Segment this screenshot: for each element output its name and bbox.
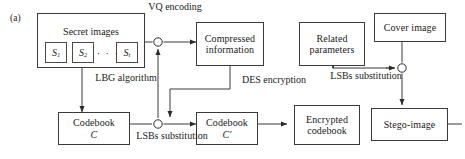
secret-image-st: St <box>116 42 138 63</box>
edge-compressed-down-left <box>170 66 230 103</box>
edge-label-lsbs-substitution-left-line1: LSBs <box>136 130 158 141</box>
secret-image-st-label: S <box>124 47 129 58</box>
node-cover-image-line1: Cover image <box>384 22 436 33</box>
edge-label-des-encryption: DES encryption <box>234 74 314 85</box>
panel-label: (a) <box>10 13 21 23</box>
node-related-parameters-line2: parameters <box>310 44 355 55</box>
junction-circle-vq <box>154 38 162 46</box>
flowchart-figure: (a) Secret images S1 S2 · · · St Compres… <box>0 0 465 159</box>
node-codebook-c-line1: Codebook <box>73 117 115 128</box>
junction-circle-lsbs-left <box>154 120 162 128</box>
node-encrypted-codebook: Encrypted codebook <box>294 105 360 145</box>
edge-label-lsbs-substitution-left: LSBs substitution <box>127 130 217 141</box>
edge-label-vq-encoding-line1: VQ <box>148 1 162 12</box>
edge-label-des-encryption-line2: encryption <box>263 74 306 85</box>
edge-label-lsbs-substitution-right: LSBs substitution <box>323 70 409 81</box>
node-compressed-information-line1: Compressed <box>205 33 255 44</box>
edge-label-des-encryption-line1: DES <box>242 74 261 85</box>
secret-images-group: Secret images S1 S2 · · · St <box>37 13 145 68</box>
secret-images-title: Secret images <box>38 26 144 37</box>
node-compressed-information: Compressed information <box>196 22 264 66</box>
secret-image-s2: S2 <box>72 42 94 63</box>
node-codebook-c-prime-line1: Codebook <box>206 117 248 128</box>
edge-label-lbg-algorithm-line2: algorithm <box>118 72 157 83</box>
node-codebook-c-prime-line2: C′ <box>222 129 231 140</box>
edge-label-lsbs-substitution-right-line2: substitution <box>355 70 402 81</box>
node-cover-image: Cover image <box>374 13 446 42</box>
node-related-parameters-line1: Related <box>316 33 347 44</box>
edge-label-vq-encoding: VQ encoding <box>140 1 210 12</box>
node-codebook-c: Codebook C <box>58 112 130 145</box>
secret-image-s1: S1 <box>45 42 67 63</box>
edge-label-lsbs-substitution-left-line2: substitution <box>161 130 208 141</box>
node-stego-image: Stego-image <box>371 108 448 141</box>
node-codebook-c-line2: C <box>91 129 98 140</box>
node-related-parameters: Related parameters <box>299 22 365 66</box>
node-encrypted-codebook-line1: Encrypted <box>306 114 348 125</box>
edge-label-vq-encoding-line2: encoding <box>165 1 202 12</box>
node-stego-image-line1: Stego-image <box>384 119 436 130</box>
edge-related-to-right-junction-path <box>333 66 394 68</box>
node-encrypted-codebook-line2: codebook <box>307 125 347 136</box>
edge-label-lbg-algorithm-line1: LBG <box>95 72 115 83</box>
edge-label-lsbs-substitution-right-line1: LSBs <box>330 70 352 81</box>
node-compressed-information-line2: information <box>206 44 254 55</box>
edge-label-lbg-algorithm: LBG algorithm <box>88 72 164 83</box>
